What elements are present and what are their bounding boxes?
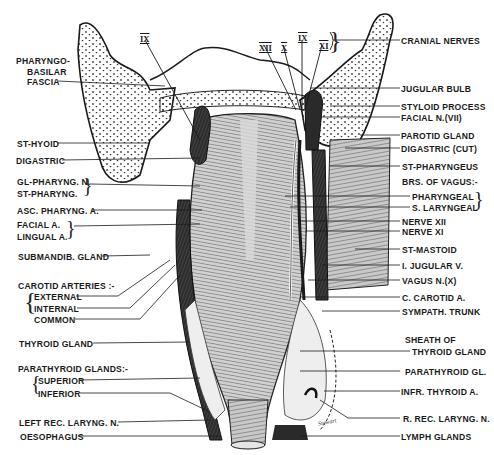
label-jugular-bulb: JUGULAR BULB: [401, 84, 471, 94]
label-digastric-cut: DIGASTRIC (CUT): [401, 144, 477, 154]
label-brs-of-vagus: BRS. OF VAGUS:-: [402, 177, 478, 187]
brace-facial-lingual: }: [66, 218, 76, 238]
label-parotid-gland: PAROTID GLAND: [401, 131, 475, 141]
numeral-ix-left: IX: [140, 34, 149, 44]
label-r-rec-laryng-n: R. REC. LARYNG. N.: [403, 414, 490, 424]
label-st-pharyng: ST-PHARYNG.: [17, 189, 78, 199]
label-pharyngeal: PHARYNGEAL: [412, 192, 474, 202]
label-st-hyoid: ST-HYOID: [17, 139, 59, 149]
oesophagus-tube: [228, 400, 268, 445]
label-i-jugular-v: I. JUGULAR V.: [402, 261, 463, 271]
numeral-ix-right: IX: [298, 33, 307, 43]
label-thyroid-gland: THYROID GLAND: [19, 339, 93, 349]
label-oesophagus: OESOPHAGUS: [20, 432, 84, 442]
label-digastric: DIGASTRIC: [16, 156, 65, 166]
label-parathyroid-superior: SUPERIOR: [38, 376, 85, 386]
label-nerve-xi: NERVE XI: [402, 227, 444, 237]
label-pharyngobasilar-2: BASILAR: [27, 67, 67, 77]
label-infr-thyroid-a: INFR. THYROID A.: [401, 387, 478, 397]
label-facial-n: FACIAL N.(VII): [401, 113, 462, 123]
label-facial-a: FACIAL A.: [17, 220, 60, 230]
label-lymph-glands: LYMPH GLANDS: [401, 432, 471, 442]
label-left-rec-laryng-n: LEFT REC. LARYNG. N.: [19, 418, 119, 428]
brace-gl-st: }: [83, 175, 93, 195]
label-parathyroid-gl: PARATHYROID GL.: [405, 367, 486, 377]
numeral-xii: XII: [259, 43, 272, 53]
label-c-carotid-a: C. CAROTID A.: [402, 293, 465, 303]
numeral-xi: XI: [319, 41, 328, 51]
brace-vagus-branches: }: [474, 189, 484, 209]
label-submandib-gland: SUBMANDIB. GLAND: [18, 252, 109, 262]
label-pharyngobasilar-1: PHARYNGO-: [16, 56, 70, 66]
label-styloid-process: STYLOID PROCESS: [401, 102, 486, 112]
cranial-nerves-brace: }: [329, 28, 341, 54]
label-carotid-external: EXTERNAL: [34, 292, 82, 302]
right-internal-jugular-vein: [312, 150, 328, 300]
label-asc-pharyng-a: ASC. PHARYNG. A.: [17, 206, 99, 216]
label-s-laryngeal: S. LARYNGEAL: [412, 203, 478, 213]
sternomastoid-muscle: [326, 138, 390, 290]
label-gl-pharyng-n: GL-PHARYNG. N.: [17, 177, 91, 187]
label-parathyroid-inferior: INFERIOR: [38, 389, 81, 399]
numeral-x: X: [281, 43, 287, 53]
label-st-pharyngeus: ST-PHARYNGEUS: [402, 162, 478, 172]
label-sheath-of: SHEATH OF: [405, 335, 456, 345]
label-cranial-nerves: CRANIAL NERVES: [401, 36, 480, 46]
label-vagus-n: VAGUS N.(X): [402, 276, 457, 286]
label-lingual-a: LINGUAL A.: [17, 232, 68, 242]
label-sheath-thyroid-gland: THYROID GLAND: [412, 347, 486, 357]
label-st-mastoid: ST-MASTOID: [402, 245, 457, 255]
label-carotid-common: COMMON: [34, 315, 75, 325]
lymph-gland: [272, 425, 308, 440]
label-nerve-xii: NERVE XII: [402, 217, 446, 227]
label-carotid-internal: INTERNAL: [34, 304, 79, 314]
basilar-dotted-region: [160, 90, 305, 112]
label-sympath-trunk: SYMPATH. TRUNK: [402, 307, 480, 317]
label-pharyngobasilar-3: FASCIA: [27, 77, 60, 87]
